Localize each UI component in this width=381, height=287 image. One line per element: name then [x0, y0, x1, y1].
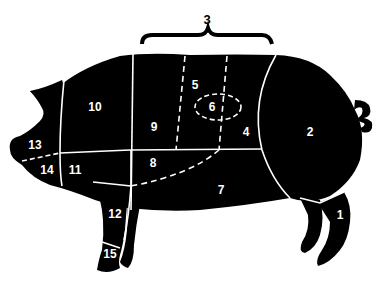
- cut-label-1: 1: [337, 208, 344, 222]
- cut-label-6: 6: [209, 100, 216, 114]
- cut-label-12: 12: [108, 207, 122, 221]
- group-bracket-3: 3: [142, 12, 272, 44]
- cut-label-4: 4: [243, 125, 250, 139]
- cut-label-11: 11: [69, 163, 82, 177]
- cut-label-10: 10: [88, 100, 102, 114]
- cut-label-2: 2: [307, 125, 314, 139]
- group-label-3: 3: [203, 12, 210, 27]
- pork-cuts-diagram: 3: [0, 0, 381, 287]
- cut-label-9: 9: [151, 120, 158, 134]
- cut-label-15: 15: [103, 247, 117, 261]
- cut-label-5: 5: [192, 78, 199, 92]
- cut-label-13: 13: [28, 138, 42, 152]
- cut-label-14: 14: [40, 163, 54, 177]
- cut-label-7: 7: [218, 183, 225, 197]
- cut-label-8: 8: [150, 156, 157, 170]
